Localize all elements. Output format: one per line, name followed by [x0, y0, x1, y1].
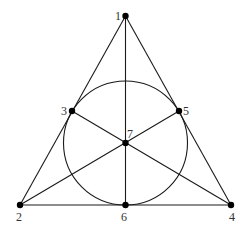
point-label-2: 2 — [16, 210, 22, 224]
point-3 — [69, 108, 75, 114]
fano-plane-diagram: 1234567 — [0, 0, 251, 229]
point-1 — [122, 13, 128, 19]
line-4-3 — [72, 111, 231, 205]
point-2 — [17, 202, 23, 208]
point-label-6: 6 — [121, 210, 127, 224]
diagram-lines — [20, 16, 231, 205]
point-label-5: 5 — [183, 104, 189, 118]
line-2-5 — [20, 111, 179, 205]
point-6 — [122, 202, 128, 208]
point-5 — [176, 108, 182, 114]
point-label-1: 1 — [115, 9, 121, 23]
point-4 — [228, 202, 234, 208]
point-label-7: 7 — [127, 127, 133, 141]
point-label-4: 4 — [229, 210, 235, 224]
point-label-3: 3 — [61, 104, 67, 118]
